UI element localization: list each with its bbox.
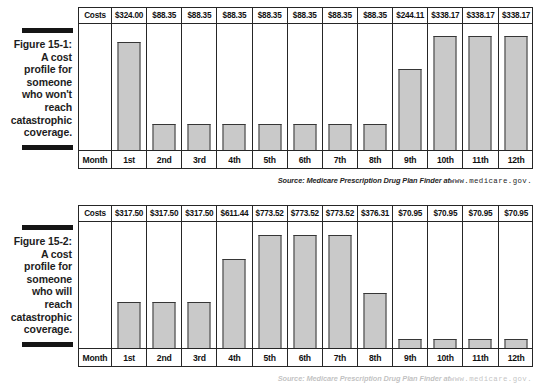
costs-header-row: Costs$324.00$88.35$88.35$88.35$88.35$88.… [79, 8, 532, 24]
bar-column [358, 222, 393, 348]
bar [188, 302, 211, 348]
cost-value-cell: $773.52 [288, 206, 323, 221]
cost-value-cell: $88.35 [288, 8, 323, 23]
figure-15-1-label: Figure 15-1: [0, 38, 72, 51]
month-label-cell: 12th [499, 151, 534, 168]
bar-column [217, 24, 252, 150]
figure-15-1-chart: Costs$324.00$88.35$88.35$88.35$88.35$88.… [78, 7, 533, 169]
bar [118, 302, 141, 348]
bar-column [217, 222, 252, 348]
bar-column [358, 24, 393, 150]
caption-line-3: someone [0, 273, 72, 286]
bar [293, 235, 316, 348]
bar-column [253, 222, 288, 348]
caption-line-4: who will [0, 285, 72, 298]
bar [258, 235, 281, 348]
figure-15-1-source: Source: Medicare Prescription Drug Plan … [278, 176, 532, 185]
caption-line-4: who won't [0, 88, 72, 101]
caption-line-5: reach [0, 101, 72, 114]
caption-rule-bottom [22, 145, 73, 150]
bar [223, 259, 246, 348]
bar-column [499, 222, 534, 348]
bar-column [499, 24, 534, 150]
source-url: www.medicare.gov. [450, 375, 532, 383]
bar-column [428, 24, 463, 150]
source-prefix: Source: Medicare Prescription Drug Plan … [278, 176, 450, 185]
cost-value-cell: $376.31 [358, 206, 393, 221]
month-label-cell: 7th [323, 349, 358, 366]
month-label-cell: 12th [499, 349, 534, 366]
month-label-cell: 3rd [182, 349, 217, 366]
month-row-header: Month [79, 349, 112, 366]
cost-value-cell: $317.50 [182, 206, 217, 221]
month-label-cell: 9th [393, 349, 428, 366]
bar [469, 339, 492, 348]
cost-value-cell: $773.52 [253, 206, 288, 221]
figure-15-1-caption: Figure 15-1: A cost profile for someone … [0, 33, 74, 139]
cost-value-cell: $611.44 [217, 206, 252, 221]
month-label-cell: 10th [428, 151, 463, 168]
month-label-cell: 11th [463, 151, 498, 168]
bar-column [253, 24, 288, 150]
bar-column [323, 24, 358, 150]
bar-column [182, 24, 217, 150]
month-label-cell: 8th [358, 151, 393, 168]
bar [258, 124, 281, 150]
cost-value-cell: $70.95 [428, 206, 463, 221]
figure-15-1-block: Figure 15-1: A cost profile for someone … [0, 0, 534, 192]
figure-15-1-caption-column: Figure 15-1: A cost profile for someone … [0, 28, 74, 150]
bar-column [112, 222, 147, 348]
bar [505, 339, 528, 348]
cost-value-cell: $317.50 [147, 206, 182, 221]
bar-column [147, 24, 182, 150]
figure-15-2-source: Source: Medicare Prescription Drug Plan … [278, 374, 532, 383]
bar-column [428, 222, 463, 348]
month-label-cell: 3rd [182, 151, 217, 168]
cost-value-cell: $88.35 [323, 8, 358, 23]
bar [434, 36, 457, 150]
caption-line-2: profile for [0, 260, 72, 273]
month-label-cell: 5th [253, 349, 288, 366]
caption-line-1: A cost [0, 51, 72, 64]
caption-line-5: reach [0, 298, 72, 311]
bar [399, 339, 422, 348]
month-label-cell: 11th [463, 349, 498, 366]
cost-value-cell: $70.95 [499, 206, 534, 221]
bar-column [288, 222, 323, 348]
caption-line-7: coverage. [0, 323, 72, 336]
cost-value-cell: $338.17 [463, 8, 498, 23]
figure-15-1-plot-area [79, 24, 532, 150]
cost-value-cell: $70.95 [463, 206, 498, 221]
costs-header-row: Costs$317.50$317.50$317.50$611.44$773.52… [79, 206, 532, 222]
cost-value-cell: $88.35 [147, 8, 182, 23]
month-label-cell: 2nd [147, 349, 182, 366]
cost-value-cell: $88.35 [182, 8, 217, 23]
month-label-cell: 8th [358, 349, 393, 366]
source-prefix: Source: Medicare Prescription Drug Plan … [278, 374, 450, 383]
cost-value-cell: $773.52 [323, 206, 358, 221]
caption-line-1: A cost [0, 248, 72, 261]
figure-15-2-caption-column: Figure 15-2: A cost profile for someone … [0, 225, 74, 347]
month-row-header: Month [79, 151, 112, 168]
month-label-cell: 6th [288, 151, 323, 168]
bar-column [323, 222, 358, 348]
plot-label-spacer [79, 222, 112, 348]
cost-value-cell: $324.00 [112, 8, 147, 23]
bar-column [182, 222, 217, 348]
cost-value-cell: $244.11 [393, 8, 428, 23]
month-label-cell: 6th [288, 349, 323, 366]
month-label-cell: 2nd [147, 151, 182, 168]
cost-value-cell: $338.17 [499, 8, 534, 23]
month-footer-row: Month1st2nd3rd4th5th6th7th8th9th10th11th… [79, 348, 532, 366]
source-url: www.medicare.gov. [450, 177, 532, 185]
bar [293, 124, 316, 150]
caption-line-7: coverage. [0, 126, 72, 139]
caption-line-2: profile for [0, 63, 72, 76]
bar-column [463, 222, 498, 348]
month-label-cell: 4th [217, 151, 252, 168]
bar [364, 293, 387, 348]
bar-column [112, 24, 147, 150]
bar [328, 235, 351, 348]
bar-column [288, 24, 323, 150]
cost-value-cell: $88.35 [253, 8, 288, 23]
